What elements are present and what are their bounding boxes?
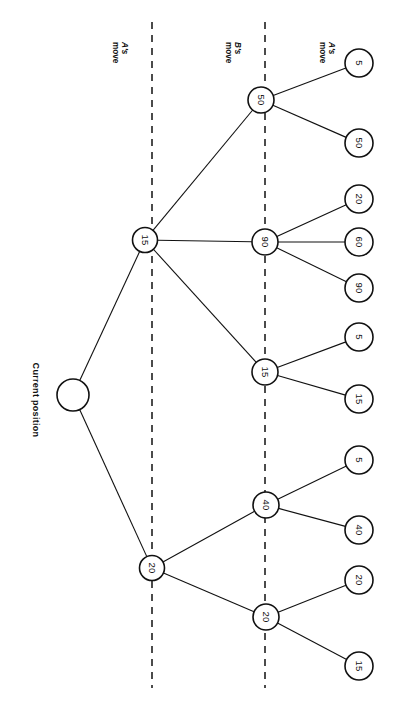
tree-node-c8: 5 bbox=[345, 446, 373, 474]
node-value-label: 50 bbox=[354, 138, 365, 149]
move-divider-lines bbox=[152, 22, 265, 688]
node-value-label: 40 bbox=[261, 500, 272, 511]
tree-node-c7: 15 bbox=[345, 385, 373, 413]
tree-nodes: 152050901540205502060905155402015 bbox=[57, 49, 373, 680]
tree-edge bbox=[273, 105, 346, 137]
node-value-label: 20 bbox=[354, 194, 365, 205]
node-value-label: 20 bbox=[354, 575, 365, 586]
tree-edge bbox=[277, 205, 346, 237]
node-value-label: 60 bbox=[354, 237, 365, 248]
tree-node-a1: 15 bbox=[133, 228, 158, 253]
game-tree-figure: 152050901540205502060905155402015 Curren… bbox=[0, 0, 398, 705]
node-value-label: 90 bbox=[354, 283, 365, 294]
column-header-line2: move bbox=[224, 42, 233, 64]
root-node bbox=[57, 379, 89, 411]
tree-node-b2: 90 bbox=[252, 229, 278, 255]
tree-node-b4: 40 bbox=[253, 492, 279, 518]
column-header-labels: Current positionA'smoveB'smoveA'smove bbox=[31, 41, 336, 437]
tree-edge bbox=[278, 466, 347, 499]
tree-edge bbox=[163, 573, 254, 612]
tree-edge bbox=[157, 240, 252, 242]
tree-edge bbox=[277, 248, 347, 282]
node-value-label: 20 bbox=[147, 563, 158, 574]
game-tree-svg: 152050901540205502060905155402015 Curren… bbox=[0, 0, 398, 705]
tree-edge bbox=[153, 249, 256, 362]
tree-edge bbox=[163, 511, 255, 562]
column-header-line2: move bbox=[318, 42, 327, 64]
column-header-1: A'smove bbox=[111, 41, 129, 64]
tree-edge bbox=[153, 110, 253, 230]
tree-edge bbox=[278, 623, 347, 659]
column-header-2: B'smove bbox=[224, 42, 242, 64]
node-value-label: 50 bbox=[256, 95, 267, 106]
node-value-label: 15 bbox=[354, 394, 365, 405]
tree-edges bbox=[80, 68, 347, 660]
tree-node-c1: 5 bbox=[345, 49, 373, 77]
column-header-line2: move bbox=[111, 42, 120, 64]
column-header-line1: A's bbox=[120, 41, 129, 55]
tree-node-b1: 50 bbox=[248, 87, 274, 113]
node-value-label: 20 bbox=[261, 612, 272, 623]
tree-edge bbox=[80, 251, 140, 380]
node-value-label: 90 bbox=[260, 237, 271, 248]
tree-node-c6: 5 bbox=[345, 323, 373, 351]
node-value-label: 15 bbox=[140, 235, 151, 246]
tree-node-b5: 20 bbox=[253, 604, 279, 630]
tree-node-c9: 40 bbox=[345, 516, 373, 544]
tree-edge bbox=[273, 68, 346, 95]
tree-node-c11: 15 bbox=[345, 652, 373, 680]
tree-edge bbox=[80, 410, 147, 557]
tree-node-c3: 20 bbox=[345, 185, 373, 213]
tree-edge bbox=[279, 508, 346, 526]
tree-edge bbox=[277, 342, 346, 368]
tree-node-c2: 50 bbox=[345, 129, 373, 157]
tree-edge bbox=[278, 585, 346, 612]
node-value-label: 40 bbox=[354, 525, 365, 536]
column-header-3: A'smove bbox=[318, 41, 336, 64]
tree-node-a2: 20 bbox=[140, 556, 165, 581]
tree-node-c10: 20 bbox=[345, 566, 373, 594]
tree-node-c5: 90 bbox=[345, 274, 373, 302]
tree-node-b3: 15 bbox=[252, 359, 278, 385]
current-position-label: Current position bbox=[31, 363, 41, 438]
node-value-label: 15 bbox=[260, 367, 271, 378]
column-header-line1: B's bbox=[233, 42, 242, 55]
node-value-label: 15 bbox=[354, 661, 365, 672]
tree-edge bbox=[277, 376, 345, 396]
column-header-line1: A's bbox=[327, 41, 336, 55]
node-circle bbox=[57, 379, 89, 411]
node-value-label: 5 bbox=[354, 457, 365, 462]
node-value-label: 5 bbox=[354, 60, 365, 65]
tree-node-c4: 60 bbox=[345, 228, 373, 256]
node-value-label: 5 bbox=[354, 334, 365, 339]
